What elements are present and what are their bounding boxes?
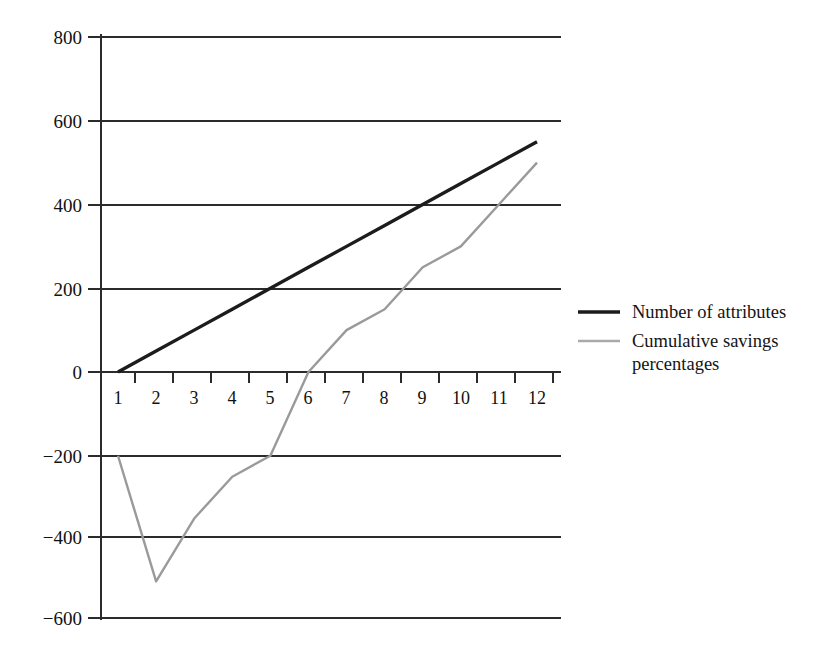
y-axis-label-200: 200	[54, 279, 83, 300]
x-axis-label-9: 9	[418, 388, 427, 408]
x-axis-label-7: 7	[342, 388, 351, 408]
y-axis-ticks	[88, 37, 101, 618]
chart-container: 800 600 400 200 0 −200 −400 −600 1	[0, 0, 836, 661]
x-axis-label-3: 3	[190, 388, 199, 408]
x-axis-label-8: 8	[380, 388, 389, 408]
y-axis-label-0: 0	[73, 362, 83, 383]
legend-label-cumulative-savings-percentages-line2: percentages	[632, 354, 719, 374]
legend: Number of attributes Cumulative savings …	[578, 302, 786, 374]
x-axis-label-6: 6	[304, 388, 313, 408]
x-axis-label-1: 1	[114, 388, 123, 408]
y-axis-label-m600: −600	[43, 608, 82, 629]
x-axis-labels: 1 2 3 4 5 6 7 8 9 10 11 12	[114, 388, 547, 408]
y-axis-label-800: 800	[54, 27, 83, 48]
x-axis-label-5: 5	[266, 388, 275, 408]
line-chart: 800 600 400 200 0 −200 −400 −600 1	[0, 0, 836, 661]
y-axis-label-m200: −200	[43, 446, 82, 467]
y-axis-label-m400: −400	[43, 527, 82, 548]
x-axis-ticks	[135, 372, 553, 383]
y-axis-labels: 800 600 400 200 0 −200 −400 −600	[43, 27, 82, 629]
legend-label-number-of-attributes: Number of attributes	[632, 302, 786, 322]
y-axis-label-400: 400	[54, 195, 83, 216]
series-line-number-of-attributes	[118, 142, 537, 372]
x-axis-label-2: 2	[152, 388, 161, 408]
x-axis-label-11: 11	[490, 388, 507, 408]
x-axis-label-12: 12	[528, 388, 546, 408]
gridlines	[101, 37, 561, 618]
x-axis-label-4: 4	[228, 388, 237, 408]
x-axis-label-10: 10	[452, 388, 470, 408]
y-axis-label-600: 600	[54, 111, 83, 132]
legend-label-cumulative-savings-percentages-line1: Cumulative savings	[632, 331, 778, 351]
